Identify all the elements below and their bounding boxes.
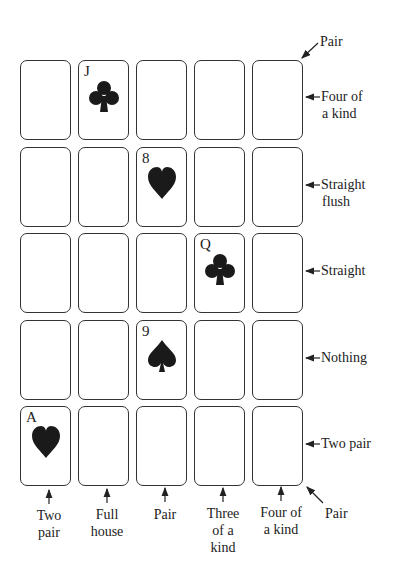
label-line: Straight: [321, 176, 365, 193]
spade-icon: [147, 339, 177, 373]
card-rank: 9: [142, 324, 150, 339]
label-line: a kind: [321, 105, 363, 122]
card-r2-c5: [252, 147, 303, 227]
card-r5-c1: A: [20, 406, 71, 486]
label-line: house: [77, 523, 137, 540]
card-r4-c4: [194, 320, 245, 400]
card-r3-c2: [78, 233, 129, 313]
card-r1-c2: J: [78, 60, 129, 140]
label-line: a kind: [251, 521, 311, 538]
card-r1-c5: [252, 60, 303, 140]
label-col-1: Two pair: [19, 507, 79, 541]
label-col-4: Three of a kind: [193, 505, 253, 556]
card-r3-c5: [252, 233, 303, 313]
card-rank: Q: [200, 237, 211, 252]
label-line: Full: [77, 506, 137, 523]
card-r1-c4: [194, 60, 245, 140]
label-diagonal-bottom: Pair: [325, 505, 348, 522]
card-rank: J: [84, 64, 90, 79]
label-col-2: Full house: [77, 506, 137, 540]
card-rank: A: [26, 410, 37, 425]
card-r4-c3: 9: [136, 320, 187, 400]
card-r3-c1: [20, 233, 71, 313]
label-row-1: Four of a kind: [321, 88, 363, 122]
club-icon: [205, 252, 235, 286]
card-rank: 8: [142, 151, 150, 166]
label-line: Three: [193, 505, 253, 522]
label-line: flush: [321, 193, 365, 210]
card-r4-c5: [252, 320, 303, 400]
card-r4-c1: [20, 320, 71, 400]
label-col-3: Pair: [135, 506, 195, 523]
label-line: Four of: [321, 88, 363, 105]
card-r4-c2: [78, 320, 129, 400]
label-row-5: Two pair: [321, 435, 371, 452]
card-r3-c4: Q: [194, 233, 245, 313]
label-row-3: Straight: [321, 262, 365, 279]
card-r3-c3: [136, 233, 187, 313]
label-line: Four of: [251, 504, 311, 521]
card-r2-c3: 8: [136, 147, 187, 227]
card-r5-c5: [252, 406, 303, 486]
label-diagonal-top: Pair: [320, 33, 343, 50]
card-r2-c1: [20, 147, 71, 227]
card-r5-c3: [136, 406, 187, 486]
card-r1-c1: [20, 60, 71, 140]
label-line: of a: [193, 522, 253, 539]
card-r2-c4: [194, 147, 245, 227]
heart-icon: [31, 425, 61, 459]
label-line: Two: [19, 507, 79, 524]
card-r2-c2: [78, 147, 129, 227]
label-col-5: Four of a kind: [251, 504, 311, 538]
label-line: kind: [193, 539, 253, 556]
card-r5-c2: [78, 406, 129, 486]
label-row-2: Straight flush: [321, 176, 365, 210]
club-icon: [89, 79, 119, 113]
heart-icon: [147, 166, 177, 200]
card-r1-c3: [136, 60, 187, 140]
label-row-4: Nothing: [321, 349, 367, 366]
card-r5-c4: [194, 406, 245, 486]
label-line: pair: [19, 524, 79, 541]
